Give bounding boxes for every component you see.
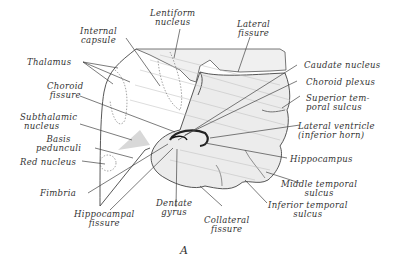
label-inferior-temporal-sulcus: Inferior temporalsulcus xyxy=(268,201,348,219)
label-basis-pedunculi: Basispedunculi xyxy=(36,135,81,153)
label-middle-temporal-sulcus: Middle temporalsulcus xyxy=(281,180,357,198)
label-red-nucleus: Red nucleus xyxy=(20,158,76,167)
label-collateral-fissure: Collateralfissure xyxy=(204,216,249,234)
panel-label: A xyxy=(180,244,188,257)
label-lateral-ventricle: Lateral ventricle(inferior horn) xyxy=(298,122,375,140)
label-thalamus: Thalamus xyxy=(27,58,71,67)
label-choroid-fissure: Choroidfissure xyxy=(47,82,84,100)
label-lentiform-nucleus: Lentiformnucleus xyxy=(150,9,195,27)
label-caudate-nucleus: Caudate nucleus xyxy=(304,61,381,70)
label-subthalamic-nucleus: Subthalamicnucleus xyxy=(20,113,77,131)
label-hippocampal-fissure: Hippocampalfissure xyxy=(74,210,135,228)
label-choroid-plexus: Choroid plexus xyxy=(306,78,375,87)
label-fimbria: Fimbria xyxy=(40,189,76,198)
label-lateral-fissure: Lateralfissure xyxy=(237,20,270,38)
label-hippocampus: Hippocampus xyxy=(290,155,353,164)
label-internal-capsule: Internalcapsule xyxy=(80,27,117,45)
label-superior-temporal-sulcus: Superior tem-poral sulcus xyxy=(306,94,370,112)
label-dentate-gyrus: Dentategyrus xyxy=(156,199,192,217)
